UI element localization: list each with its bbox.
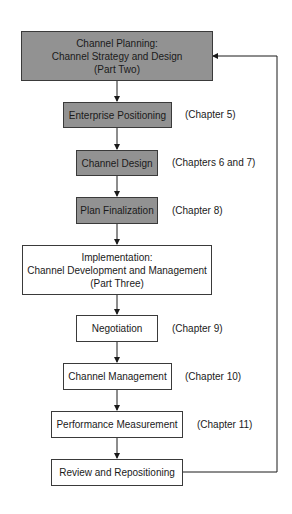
node-text-line: (Part Two) [94, 63, 140, 76]
node-review-repositioning: Review and Repositioning [51, 459, 183, 486]
node-enterprise-positioning: Enterprise Positioning [63, 102, 172, 128]
node-text-line: Channel Strategy and Design [52, 50, 183, 63]
node-negotiation: Negotiation [76, 315, 158, 342]
chapter-label: (Chapter 5) [185, 109, 236, 121]
node-channel-design: Channel Design [76, 150, 158, 176]
chapter-label: (Chapters 6 and 7) [172, 157, 255, 169]
node-channel-management: Channel Management [63, 363, 172, 390]
chapter-label: (Chapter 11) [197, 419, 252, 431]
node-channel-planning: Channel Planning: Channel Strategy and D… [21, 31, 213, 81]
node-plan-finalization: Plan Finalization [76, 197, 158, 224]
chapter-label: (Chapter 8) [172, 205, 223, 217]
chapter-label: (Chapter 9) [172, 323, 223, 335]
node-performance-measurement: Performance Measurement [51, 411, 183, 438]
node-text-line: Implementation: [81, 251, 152, 264]
node-text-line: Review and Repositioning [59, 466, 175, 479]
node-text-line: Negotiation [92, 322, 143, 335]
node-text-line: (Part Three) [90, 277, 144, 290]
chapter-label: (Chapter 10) [185, 371, 241, 383]
node-text-line: Enterprise Positioning [69, 109, 166, 122]
node-text-line: Channel Design [81, 157, 152, 170]
node-implementation: Implementation: Channel Development and … [22, 245, 212, 295]
node-text-line: Channel Management [68, 370, 166, 383]
node-text-line: Channel Development and Management [27, 264, 207, 277]
node-text-line: Plan Finalization [80, 204, 153, 217]
node-text-line: Performance Measurement [56, 418, 177, 431]
node-text-line: Channel Planning: [76, 37, 158, 50]
